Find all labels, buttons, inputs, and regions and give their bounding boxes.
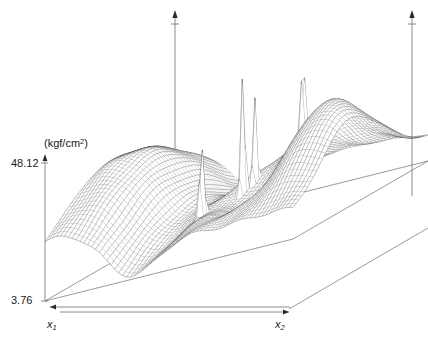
axis-min-label: 3.76 bbox=[11, 294, 32, 306]
unit-close: ) bbox=[84, 137, 88, 149]
axis-label-x1: x1 bbox=[47, 318, 57, 332]
x2-axis-arrow-arrowhead bbox=[283, 310, 289, 315]
axis-unit-label: (kgf/cm2) bbox=[44, 137, 88, 149]
x2-axis-diagonal bbox=[289, 228, 428, 309]
value-axis-arrowhead bbox=[43, 154, 48, 161]
x1-axis-arrow-arrowhead bbox=[50, 305, 56, 310]
x2-subscript: 2 bbox=[281, 323, 285, 332]
axis-1-arrowhead bbox=[409, 10, 414, 18]
axis-0-arrowhead bbox=[172, 10, 177, 18]
axes-group bbox=[41, 10, 428, 314]
surface-plot-figure: 48.12 3.76 (kgf/cm2) x1 x2 bbox=[0, 0, 428, 341]
axis-max-label: 48.12 bbox=[11, 157, 39, 169]
surface-mesh bbox=[45, 78, 428, 277]
mesh-line-u bbox=[302, 78, 305, 81]
surface-plot-canvas bbox=[0, 0, 428, 341]
unit-text: (kgf/cm bbox=[44, 137, 80, 149]
axis-label-x2: x2 bbox=[275, 318, 285, 332]
x1-subscript: 1 bbox=[53, 323, 57, 332]
